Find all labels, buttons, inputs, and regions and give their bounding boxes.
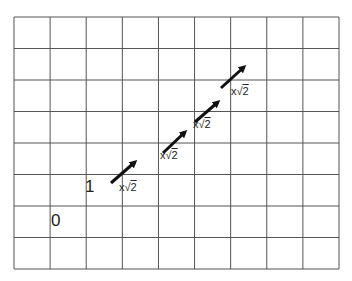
radicand: 2 <box>205 118 211 130</box>
multiplier-label: x√2 <box>160 149 178 161</box>
value-label-one: 1 <box>85 177 94 197</box>
grid-diagram <box>0 0 352 281</box>
grid-lines <box>14 17 339 269</box>
arrows <box>111 67 244 183</box>
multiplier-label: x√2 <box>231 85 249 97</box>
value-label-zero: 0 <box>51 211 60 231</box>
radicand: 2 <box>172 149 178 161</box>
multiplier-label: x√2 <box>193 118 211 130</box>
radicand: 2 <box>243 85 249 97</box>
arrow-icon <box>111 162 135 183</box>
multiplier-label: x√2 <box>119 181 137 193</box>
radicand: 2 <box>131 181 137 193</box>
